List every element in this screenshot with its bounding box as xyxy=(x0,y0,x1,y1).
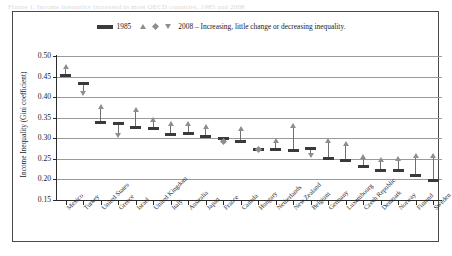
chart-frame: 1985 2008 – Increasing, little change or… xyxy=(12,11,439,242)
bar-1985 xyxy=(113,122,124,125)
bar-1985 xyxy=(148,127,159,130)
marker-2008-increasing xyxy=(290,123,296,128)
gridline xyxy=(57,179,442,180)
bar-1985 xyxy=(305,147,316,150)
marker-2008-increasing xyxy=(185,121,191,126)
marker-2008-increasing xyxy=(378,157,384,162)
gridline xyxy=(57,138,442,139)
gridline xyxy=(57,97,442,98)
bar-1985 xyxy=(78,82,89,85)
bar-1985 xyxy=(393,169,404,172)
diamond-icon xyxy=(152,23,159,30)
marker-2008-increasing xyxy=(238,126,244,131)
connector-stem xyxy=(415,155,416,176)
gridline xyxy=(57,56,442,57)
marker-2008-increasing xyxy=(168,121,174,126)
y-tick-label: 0.20 xyxy=(17,175,51,183)
marker-2008-increasing xyxy=(413,153,419,158)
marker-2008-increasing xyxy=(203,124,209,129)
y-tick-label: 0.45 xyxy=(17,73,51,81)
connector-stem xyxy=(293,126,294,150)
y-tick-label: 0.35 xyxy=(17,114,51,122)
legend-label-2008: 2008 – Increasing, little change or decr… xyxy=(178,22,345,31)
marker-2008-increasing xyxy=(150,117,156,122)
y-tick-label: 0.40 xyxy=(17,93,51,101)
y-tick-mark xyxy=(53,159,57,160)
y-tick-mark xyxy=(53,97,57,98)
y-tick-mark xyxy=(53,138,57,139)
marker-2008-increasing xyxy=(63,64,69,69)
marker-2008-decreasing xyxy=(115,133,121,138)
connector-stem xyxy=(135,109,136,128)
connector-stem xyxy=(433,155,434,180)
marker-2008-decreasing xyxy=(80,91,86,96)
y-tick-label: 0.30 xyxy=(17,134,51,142)
bar-1985 xyxy=(60,74,71,77)
bar-1985 xyxy=(165,133,176,136)
y-tick-mark xyxy=(53,77,57,78)
gridline xyxy=(57,159,442,160)
y-tick-mark xyxy=(53,56,57,57)
y-tick-mark xyxy=(53,179,57,180)
bar-1985 xyxy=(410,174,421,177)
y-tick-mark xyxy=(53,118,57,119)
y-tick-label: 0.15 xyxy=(17,196,51,204)
bar-1985 xyxy=(235,140,246,143)
bar-1985 xyxy=(288,149,299,152)
bar-1985 xyxy=(340,159,351,162)
marker-2008-increasing xyxy=(395,156,401,161)
marker-2008-increasing xyxy=(133,107,139,112)
y-tick-mark xyxy=(53,200,57,201)
marker-2008-decreasing xyxy=(308,153,314,158)
triangle-down-icon xyxy=(165,24,171,29)
bar-1985 xyxy=(95,121,106,124)
bar-1985 xyxy=(130,126,141,129)
marker-2008-increasing xyxy=(360,154,366,159)
bar-1985 xyxy=(200,135,211,138)
connector-stem xyxy=(328,140,329,158)
marker-2008-increasing xyxy=(98,104,104,109)
plot-area: 0.150.200.250.300.350.400.450.50MexicoTu… xyxy=(57,56,442,200)
plot-canvas xyxy=(57,56,442,200)
bar-1985 xyxy=(428,179,439,182)
connector-stem xyxy=(345,143,346,160)
legend-label-1985: 1985 xyxy=(117,22,132,31)
chart-legend: 1985 2008 – Increasing, little change or… xyxy=(13,22,438,31)
y-tick-label: 0.25 xyxy=(17,155,51,163)
marker-2008-increasing xyxy=(343,141,349,146)
gridline xyxy=(57,118,442,119)
figure-caption-sliver: Figure 1. Income inequality increased in… xyxy=(0,0,451,9)
marker-2008-increasing xyxy=(325,138,331,143)
y-tick-label: 0.50 xyxy=(17,52,51,60)
bar-1985 xyxy=(358,165,369,168)
bar-swatch-icon xyxy=(97,25,113,29)
gridline xyxy=(57,77,442,78)
triangle-up-icon xyxy=(140,24,146,29)
marker-2008-increasing xyxy=(430,153,436,158)
bar-1985 xyxy=(270,148,281,151)
bar-1985 xyxy=(323,157,334,160)
bar-1985 xyxy=(375,169,386,172)
bar-1985 xyxy=(183,132,194,135)
marker-2008-increasing xyxy=(273,138,279,143)
